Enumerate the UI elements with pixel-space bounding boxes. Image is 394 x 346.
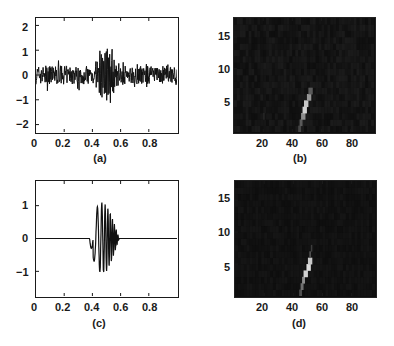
ytick-a-1: 1 [22, 47, 28, 58]
xtick-d-1: 40 [286, 302, 298, 313]
signal-line-a [36, 18, 177, 132]
ytick-c-2: −1 [16, 267, 29, 278]
caption-d: (d) [284, 317, 314, 329]
xtick-b-3: 80 [346, 138, 358, 149]
ytick-a-0: 2 [22, 22, 28, 33]
heatmap-b [234, 18, 374, 132]
ytick-c-0: 1 [22, 200, 28, 211]
plot-area-a [35, 17, 179, 134]
ytick-c-1: 0 [22, 233, 28, 244]
xtick-d-0: 20 [256, 302, 268, 313]
ytick-b-0: 15 [218, 31, 230, 42]
xtick-a-4: 0.8 [142, 138, 157, 149]
xtick-c-1: 0.2 [55, 302, 70, 313]
heatmap-d [235, 181, 375, 296]
xtick-c-4: 0.8 [142, 302, 157, 313]
ytick-b-2: 5 [224, 97, 230, 108]
ytick-d-2: 5 [224, 262, 230, 273]
xtick-d-3: 80 [346, 302, 358, 313]
caption-c: (c) [84, 317, 114, 329]
xtick-c-3: 0.6 [113, 302, 128, 313]
xtick-c-2: 0.4 [84, 302, 99, 313]
caption-a: (a) [85, 152, 115, 164]
ytick-d-0: 15 [218, 193, 230, 204]
ytick-d-1: 10 [218, 227, 230, 238]
ytick-a-2: 0 [22, 70, 28, 81]
heatmap-area-d [234, 180, 377, 298]
xtick-c-0: 0 [31, 302, 37, 313]
ytick-a-3: −1 [16, 95, 29, 106]
xtick-b-0: 20 [256, 138, 268, 149]
signal-line-c [36, 181, 177, 296]
xtick-b-1: 40 [286, 138, 298, 149]
heatmap-area-b [233, 17, 376, 134]
xtick-a-2: 0.4 [84, 138, 99, 149]
ytick-b-1: 10 [218, 64, 230, 75]
caption-b: (b) [285, 152, 315, 164]
xtick-d-2: 60 [316, 302, 328, 313]
xtick-a-0: 0 [31, 138, 37, 149]
ytick-a-4: −2 [16, 119, 29, 130]
xtick-a-1: 0.2 [55, 138, 70, 149]
xtick-b-2: 60 [316, 138, 328, 149]
xtick-a-3: 0.6 [113, 138, 128, 149]
plot-area-c [35, 180, 179, 298]
